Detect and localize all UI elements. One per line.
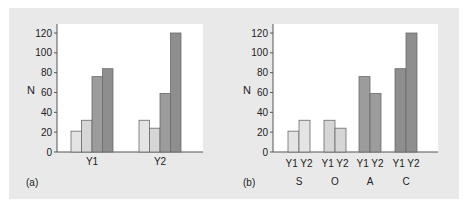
x-subcategory-label: Y1 Y2	[356, 158, 383, 169]
bar	[370, 93, 381, 152]
x-subcategory-label: Y1 Y2	[285, 158, 312, 169]
y-tick-label: 100	[251, 47, 268, 58]
bar	[160, 93, 171, 152]
x-group-label: C	[402, 176, 409, 187]
bar	[288, 131, 299, 152]
bar	[299, 120, 310, 152]
y-tick-label: 0	[262, 147, 268, 158]
x-group-label: O	[331, 176, 339, 187]
bar	[71, 131, 82, 152]
bar	[92, 77, 103, 152]
y-axis-title: N	[27, 84, 35, 96]
y-tick-label: 80	[257, 67, 269, 78]
x-subcategory-label: Y1 Y2	[392, 158, 419, 169]
y-tick-label: 20	[257, 127, 269, 138]
bar	[335, 128, 346, 152]
y-tick-label: 40	[257, 107, 269, 118]
bar	[359, 77, 370, 152]
y-axis-title: N	[243, 84, 251, 96]
bar	[82, 120, 93, 152]
x-group-label: S	[296, 176, 303, 187]
y-tick-label: 100	[35, 47, 52, 58]
panel-label-a: (a)	[26, 177, 38, 188]
bar	[150, 128, 161, 152]
y-tick-label: 40	[41, 107, 53, 118]
bar	[324, 120, 335, 152]
y-tick-label: 120	[35, 28, 52, 39]
figure: 020406080100120NY1Y2(a) 020406080100120N…	[0, 0, 469, 208]
y-tick-label: 0	[46, 147, 52, 158]
bar	[406, 33, 417, 152]
chart-a: 020406080100120NY1Y2(a)	[26, 24, 203, 188]
chart-b: 020406080100120NY1 Y2SY1 Y2OY1 Y2AY1 Y2C…	[243, 24, 438, 188]
x-category-label: Y1	[86, 156, 99, 167]
x-category-label: Y2	[154, 156, 167, 167]
y-tick-label: 20	[41, 127, 53, 138]
bar	[139, 120, 150, 152]
bar	[103, 69, 114, 152]
bar	[395, 69, 406, 152]
bar	[171, 33, 182, 152]
x-subcategory-label: Y1 Y2	[321, 158, 348, 169]
y-tick-label: 80	[41, 67, 53, 78]
x-group-label: A	[367, 176, 374, 187]
y-tick-label: 60	[41, 87, 53, 98]
y-tick-label: 60	[257, 87, 269, 98]
panel-label-b: (b)	[243, 177, 255, 188]
y-tick-label: 120	[251, 28, 268, 39]
